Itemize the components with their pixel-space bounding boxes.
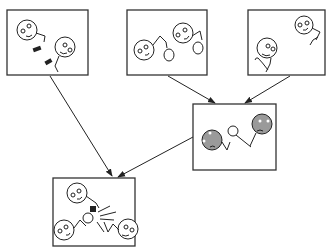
panel-1	[7, 10, 88, 75]
panel-2	[127, 10, 207, 75]
face-icon	[134, 40, 154, 60]
sad-face-icon	[252, 114, 272, 134]
fist-icon	[164, 49, 174, 61]
face-icon	[67, 183, 87, 203]
fist-icon	[228, 126, 238, 136]
diagram	[0, 0, 333, 251]
face-icon	[54, 220, 74, 240]
arrow-panel1-to-panel5	[50, 76, 112, 176]
panel-5	[53, 178, 138, 246]
arrow-panel4-to-panel5	[118, 137, 193, 177]
panel-3	[248, 10, 325, 75]
arrow-panel2-to-panel4	[168, 76, 215, 103]
fist-icon	[193, 42, 203, 54]
hammer-icon	[90, 206, 96, 212]
fist-icon	[83, 213, 93, 223]
arrow-panel3-to-panel4	[245, 76, 290, 103]
diagram-canvas	[0, 0, 333, 251]
panel-4	[193, 104, 276, 170]
face-icon	[173, 23, 193, 43]
